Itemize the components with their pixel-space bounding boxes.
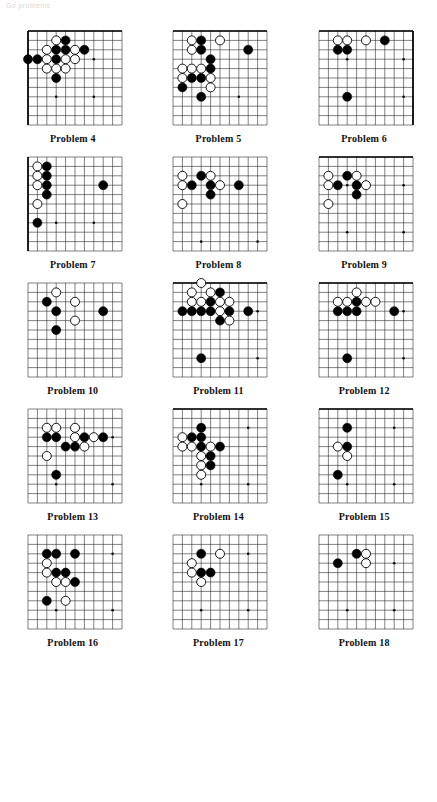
black-stone[interactable]	[42, 190, 51, 199]
black-stone[interactable]	[216, 316, 225, 325]
black-stone[interactable]	[352, 549, 361, 558]
go-board-6[interactable]	[312, 24, 416, 128]
black-stone[interactable]	[197, 92, 206, 101]
white-stone[interactable]	[61, 578, 70, 587]
black-stone[interactable]	[197, 442, 206, 451]
black-stone[interactable]	[52, 568, 61, 577]
black-stone[interactable]	[52, 326, 61, 335]
white-stone[interactable]	[333, 36, 342, 45]
white-stone[interactable]	[52, 36, 61, 45]
black-stone[interactable]	[225, 307, 234, 316]
white-stone[interactable]	[52, 288, 61, 297]
white-stone[interactable]	[52, 578, 61, 587]
white-stone[interactable]	[178, 433, 187, 442]
black-stone[interactable]	[178, 83, 187, 92]
white-stone[interactable]	[33, 181, 42, 190]
black-stone[interactable]	[178, 307, 187, 316]
black-stone[interactable]	[188, 181, 197, 190]
black-stone[interactable]	[70, 442, 79, 451]
black-stone[interactable]	[52, 55, 61, 64]
white-stone[interactable]	[70, 316, 79, 325]
white-stone[interactable]	[52, 64, 61, 73]
black-stone[interactable]	[197, 423, 206, 432]
white-stone[interactable]	[178, 171, 187, 180]
white-stone[interactable]	[197, 64, 206, 73]
black-stone[interactable]	[197, 45, 206, 54]
white-stone[interactable]	[42, 45, 51, 54]
go-board-17[interactable]	[166, 528, 270, 632]
white-stone[interactable]	[42, 64, 51, 73]
black-stone[interactable]	[244, 307, 253, 316]
white-stone[interactable]	[324, 171, 333, 180]
black-stone[interactable]	[207, 181, 216, 190]
black-stone[interactable]	[343, 307, 352, 316]
white-stone[interactable]	[207, 442, 216, 451]
black-stone[interactable]	[380, 36, 389, 45]
white-stone[interactable]	[178, 64, 187, 73]
black-stone[interactable]	[207, 307, 216, 316]
white-stone[interactable]	[188, 36, 197, 45]
black-stone[interactable]	[343, 92, 352, 101]
white-stone[interactable]	[33, 200, 42, 209]
go-board-10[interactable]	[21, 276, 125, 380]
white-stone[interactable]	[178, 74, 187, 83]
black-stone[interactable]	[70, 578, 79, 587]
white-stone[interactable]	[33, 171, 42, 180]
white-stone[interactable]	[216, 549, 225, 558]
black-stone[interactable]	[343, 423, 352, 432]
black-stone[interactable]	[99, 181, 108, 190]
black-stone[interactable]	[197, 74, 206, 83]
white-stone[interactable]	[178, 200, 187, 209]
black-stone[interactable]	[42, 162, 51, 171]
black-stone[interactable]	[343, 171, 352, 180]
black-stone[interactable]	[42, 297, 51, 306]
white-stone[interactable]	[207, 288, 216, 297]
black-stone[interactable]	[188, 74, 197, 83]
black-stone[interactable]	[70, 549, 79, 558]
black-stone[interactable]	[333, 45, 342, 54]
white-stone[interactable]	[333, 297, 342, 306]
black-stone[interactable]	[244, 45, 253, 54]
white-stone[interactable]	[324, 200, 333, 209]
white-stone[interactable]	[343, 36, 352, 45]
black-stone[interactable]	[23, 55, 32, 64]
black-stone[interactable]	[33, 218, 42, 227]
black-stone[interactable]	[197, 568, 206, 577]
black-stone[interactable]	[343, 354, 352, 363]
white-stone[interactable]	[42, 452, 51, 461]
white-stone[interactable]	[188, 442, 197, 451]
black-stone[interactable]	[333, 181, 342, 190]
white-stone[interactable]	[42, 55, 51, 64]
white-stone[interactable]	[352, 171, 361, 180]
white-stone[interactable]	[216, 297, 225, 306]
white-stone[interactable]	[188, 297, 197, 306]
black-stone[interactable]	[80, 433, 89, 442]
white-stone[interactable]	[42, 559, 51, 568]
white-stone[interactable]	[362, 297, 371, 306]
black-stone[interactable]	[42, 181, 51, 190]
black-stone[interactable]	[352, 307, 361, 316]
black-stone[interactable]	[52, 74, 61, 83]
white-stone[interactable]	[178, 181, 187, 190]
white-stone[interactable]	[207, 171, 216, 180]
white-stone[interactable]	[33, 162, 42, 171]
white-stone[interactable]	[70, 297, 79, 306]
black-stone[interactable]	[207, 55, 216, 64]
white-stone[interactable]	[371, 297, 380, 306]
black-stone[interactable]	[216, 288, 225, 297]
black-stone[interactable]	[390, 307, 399, 316]
black-stone[interactable]	[343, 45, 352, 54]
white-stone[interactable]	[70, 433, 79, 442]
black-stone[interactable]	[197, 307, 206, 316]
white-stone[interactable]	[362, 36, 371, 45]
black-stone[interactable]	[333, 559, 342, 568]
go-board-4[interactable]	[21, 24, 125, 128]
white-stone[interactable]	[188, 568, 197, 577]
go-board-9[interactable]	[312, 150, 416, 254]
black-stone[interactable]	[207, 190, 216, 199]
white-stone[interactable]	[343, 452, 352, 461]
black-stone[interactable]	[99, 433, 108, 442]
white-stone[interactable]	[70, 45, 79, 54]
white-stone[interactable]	[80, 442, 89, 451]
white-stone[interactable]	[188, 559, 197, 568]
